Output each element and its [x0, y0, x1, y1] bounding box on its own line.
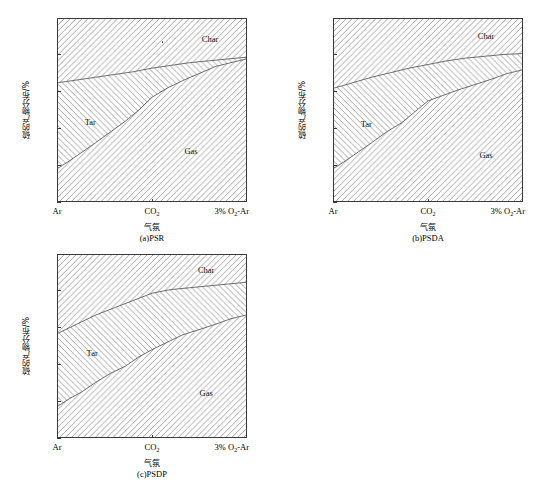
x-tick-mark-0 — [57, 435, 58, 439]
o2ar-suffix: -Ar — [237, 442, 249, 452]
y-tick-mark-80 — [57, 290, 61, 291]
region-label-gas: Gas — [200, 388, 213, 398]
y-tick-mark-40 — [333, 128, 337, 129]
y-tick-mark-20 — [57, 401, 61, 402]
region-label-char: Char — [202, 34, 219, 44]
x-tick-label-o2ar: 3% O2-Ar — [491, 207, 525, 219]
x-tick-label-co2: CO2 — [145, 443, 160, 455]
y-tick-mark-80 — [333, 54, 337, 55]
x-tick-mark-2 — [246, 199, 247, 203]
y-tick-mark-100 — [57, 254, 61, 255]
y-tick-mark-100 — [57, 18, 61, 19]
co2-subscript: 2 — [156, 211, 159, 217]
x-tick-mark-0 — [57, 199, 58, 203]
x-tick-label-co2: CO2 — [421, 207, 436, 219]
region-label-gas: Gas — [184, 146, 197, 156]
plot-artifact-dot — [162, 41, 164, 43]
region-label-tar: Tar — [85, 117, 96, 127]
x-tick-mark-1 — [428, 199, 429, 203]
plot-area-psdp: CharTarGas — [57, 254, 247, 438]
region-label-char: Char — [478, 31, 495, 41]
y-tick-mark-100 — [333, 18, 337, 19]
co2-base: CO — [145, 442, 157, 452]
y-tick-mark-60 — [333, 91, 337, 92]
region-label-gas: Gas — [479, 150, 492, 160]
y-tick-mark-20 — [333, 165, 337, 166]
stacked-area-plot-psda — [334, 19, 522, 201]
panel-caption-psda: (b)PSDA — [412, 233, 444, 243]
x-axis-title: 气氛 — [144, 221, 160, 232]
x-tick-label-o2ar: 3% O2-Ar — [215, 207, 249, 219]
co2-subscript: 2 — [432, 211, 435, 217]
x-tick-label-ar: Ar — [53, 443, 62, 452]
y-tick-mark-60 — [57, 327, 61, 328]
o2ar-prefix: 3% O — [215, 206, 235, 216]
y-tick-mark-40 — [57, 128, 61, 129]
y-tick-mark-60 — [57, 91, 61, 92]
plot-area-psda: CharTarGas — [333, 18, 523, 202]
region-label-tar: Tar — [87, 348, 98, 358]
x-tick-label-o2ar: 3% O2-Ar — [215, 443, 249, 455]
co2-base: CO — [421, 206, 433, 216]
x-axis-title: 气氛 — [420, 221, 436, 232]
y-tick-mark-80 — [57, 54, 61, 55]
y-axis-title: 硫的产物分布/% — [21, 317, 32, 375]
co2-base: CO — [145, 206, 157, 216]
stacked-area-plot-psdp — [58, 255, 246, 437]
y-axis-title: 硫的产物分布/% — [297, 81, 308, 139]
plot-area-psr: CharTarGas — [57, 18, 247, 202]
x-tick-mark-0 — [333, 199, 334, 203]
x-tick-label-co2: CO2 — [145, 207, 160, 219]
panel-caption-psdp: (c)PSDP — [137, 469, 167, 479]
panel-caption-psr: (a)PSR — [140, 233, 165, 243]
x-tick-mark-1 — [152, 199, 153, 203]
o2ar-prefix: 3% O — [215, 442, 235, 452]
o2ar-suffix: -Ar — [237, 206, 249, 216]
x-tick-mark-2 — [246, 435, 247, 439]
figure-sulfur-product-distribution: CharTarGas020406080100硫的产物分布/%ArCO23% O2… — [0, 0, 546, 496]
region-label-tar: Tar — [361, 119, 372, 129]
co2-subscript: 2 — [156, 447, 159, 453]
y-tick-mark-20 — [57, 165, 61, 166]
o2ar-prefix: 3% O — [491, 206, 511, 216]
region-label-char: Char — [198, 265, 215, 275]
stacked-area-plot-psr — [58, 19, 246, 201]
y-tick-mark-40 — [57, 364, 61, 365]
y-axis-title: 硫的产物分布/% — [21, 81, 32, 139]
x-axis-title: 气氛 — [144, 457, 160, 468]
x-tick-mark-1 — [152, 435, 153, 439]
x-tick-label-ar: Ar — [329, 207, 338, 216]
o2ar-suffix: -Ar — [513, 206, 525, 216]
x-tick-mark-2 — [522, 199, 523, 203]
x-tick-label-ar: Ar — [53, 207, 62, 216]
